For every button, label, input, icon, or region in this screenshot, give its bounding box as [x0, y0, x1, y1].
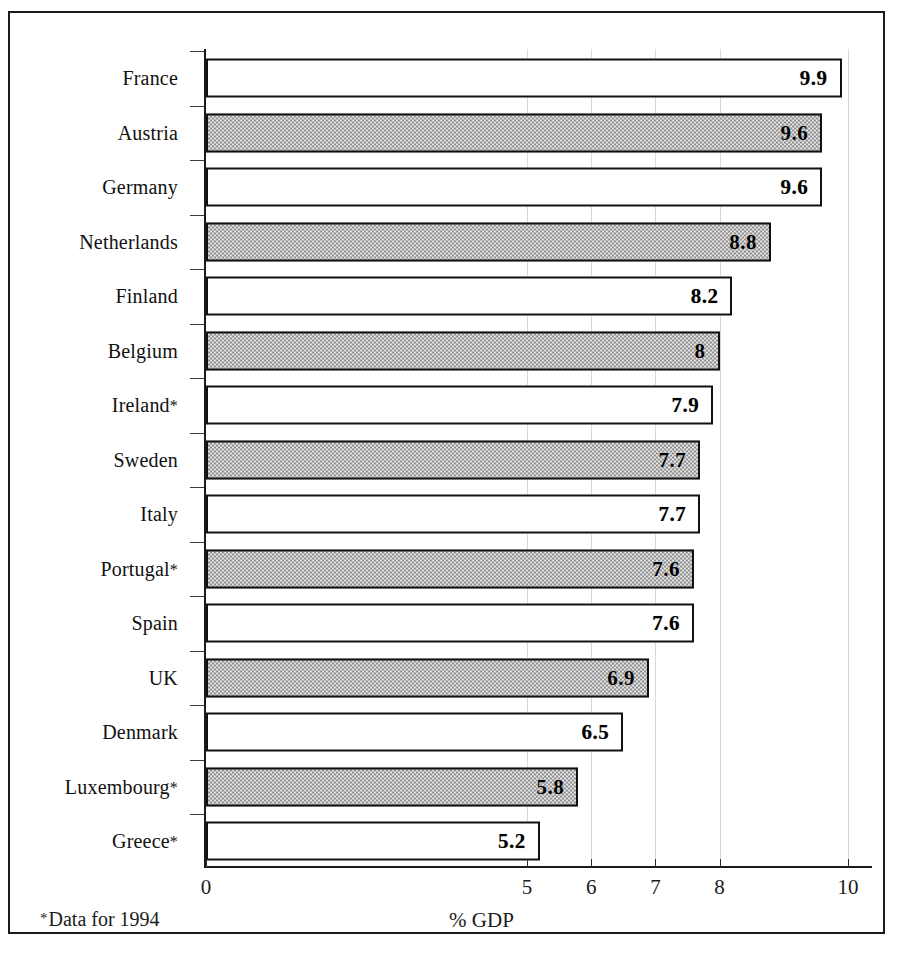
category-tick	[190, 324, 204, 325]
plot-area: France9.9Austria9.6Germany9.6Netherlands…	[10, 13, 883, 932]
bar[interactable]: 8.2	[206, 277, 732, 316]
category-tick	[190, 51, 204, 52]
bar-row[interactable]: France9.9	[10, 51, 883, 106]
category-label: Denmark	[102, 721, 178, 744]
category-tick	[190, 106, 204, 107]
category-tick	[190, 542, 204, 543]
bar-row[interactable]: Sweden7.7	[10, 433, 883, 488]
bar[interactable]: 9.6	[206, 168, 822, 207]
category-label: Italy	[140, 503, 178, 526]
bar-row[interactable]: Netherlands8.8	[10, 215, 883, 270]
category-tick	[190, 705, 204, 706]
category-label: Austria	[118, 121, 178, 144]
bar-value-label: 9.9	[800, 66, 828, 91]
x-tick-mark	[206, 859, 207, 868]
bar-value-label: 8.2	[691, 284, 719, 309]
category-label: France	[122, 67, 178, 90]
category-label-asterisk: *	[170, 560, 178, 577]
x-tick-mark	[591, 859, 592, 868]
bar[interactable]: 9.6	[206, 113, 822, 152]
chart-frame: France9.9Austria9.6Germany9.6Netherlands…	[8, 11, 885, 934]
category-label: Luxembourg*	[65, 775, 178, 798]
x-tick-mark	[527, 859, 528, 868]
bar-row[interactable]: Portugal*7.6	[10, 542, 883, 597]
x-tick-label: 7	[650, 875, 661, 900]
category-label: Sweden	[113, 448, 178, 471]
category-label-asterisk: *	[170, 778, 178, 795]
category-tick	[190, 651, 204, 652]
category-label-asterisk: *	[170, 397, 178, 414]
bar-value-label: 8.8	[729, 229, 757, 254]
x-tick-mark	[848, 859, 849, 868]
category-label: Netherlands	[79, 230, 178, 253]
bar[interactable]: 7.6	[206, 549, 694, 588]
category-tick	[190, 487, 204, 488]
bar-row[interactable]: Austria9.6	[10, 106, 883, 161]
bar[interactable]: 5.8	[206, 767, 578, 806]
category-tick	[190, 433, 204, 434]
category-label-asterisk: *	[170, 833, 178, 850]
bar-value-label: 7.6	[652, 556, 680, 581]
bar-row[interactable]: Spain7.6	[10, 596, 883, 651]
category-tick	[190, 269, 204, 270]
x-tick-label: 8	[714, 875, 725, 900]
x-tick-mark	[655, 859, 656, 868]
category-tick	[190, 215, 204, 216]
category-label: Finland	[115, 285, 178, 308]
bar-row[interactable]: Belgium8	[10, 324, 883, 379]
bar-row[interactable]: Germany9.6	[10, 160, 883, 215]
bar-value-label: 7.6	[652, 611, 680, 636]
footnote-asterisk: *	[40, 910, 48, 926]
x-tick-label: 0	[201, 875, 212, 900]
category-tick	[190, 596, 204, 597]
bar-value-label: 7.7	[659, 502, 687, 527]
category-label: Spain	[131, 612, 178, 635]
category-tick	[190, 160, 204, 161]
bar-value-label: 6.9	[607, 665, 635, 690]
bar[interactable]: 7.7	[206, 440, 700, 479]
bar[interactable]: 9.9	[206, 59, 842, 98]
x-tick-label: 6	[586, 875, 597, 900]
bar-value-label: 9.6	[781, 120, 809, 145]
category-label: Portugal*	[100, 557, 178, 580]
category-label: Ireland*	[112, 394, 178, 417]
bar-row[interactable]: UK6.9	[10, 651, 883, 706]
bar-row[interactable]: Greece*5.2	[10, 814, 883, 869]
bar-value-label: 8	[695, 338, 706, 363]
bar-row[interactable]: Italy7.7	[10, 487, 883, 542]
bar[interactable]: 7.7	[206, 495, 700, 534]
x-tick-label: 5	[522, 875, 533, 900]
bar-row[interactable]: Denmark6.5	[10, 705, 883, 760]
bar-value-label: 5.2	[498, 829, 526, 854]
category-label: Greece*	[112, 830, 178, 853]
bar-value-label: 5.8	[537, 774, 565, 799]
footnote: *Data for 1994	[40, 908, 160, 931]
bar-value-label: 7.9	[671, 393, 699, 418]
bar-row[interactable]: Luxembourg*5.8	[10, 760, 883, 815]
x-tick-label: 10	[838, 875, 859, 900]
bar-value-label: 9.6	[781, 175, 809, 200]
bar-row[interactable]: Ireland*7.9	[10, 378, 883, 433]
bar[interactable]: 7.6	[206, 604, 694, 643]
bar-value-label: 6.5	[582, 720, 610, 745]
category-label: Belgium	[108, 339, 178, 362]
bar[interactable]: 8.8	[206, 222, 771, 261]
bar-row[interactable]: Finland8.2	[10, 269, 883, 324]
bar[interactable]: 6.9	[206, 658, 649, 697]
x-tick-mark	[720, 859, 721, 868]
category-tick	[190, 760, 204, 761]
bar[interactable]: 6.5	[206, 713, 623, 752]
category-label: UK	[149, 666, 178, 689]
bar[interactable]: 8	[206, 331, 720, 370]
bar[interactable]: 7.9	[206, 386, 713, 425]
category-tick	[190, 814, 204, 815]
bar-value-label: 7.7	[659, 447, 687, 472]
footnote-text: Data for 1994	[49, 908, 160, 930]
bar[interactable]: 5.2	[206, 822, 540, 861]
category-tick	[190, 378, 204, 379]
category-label: Germany	[102, 176, 178, 199]
